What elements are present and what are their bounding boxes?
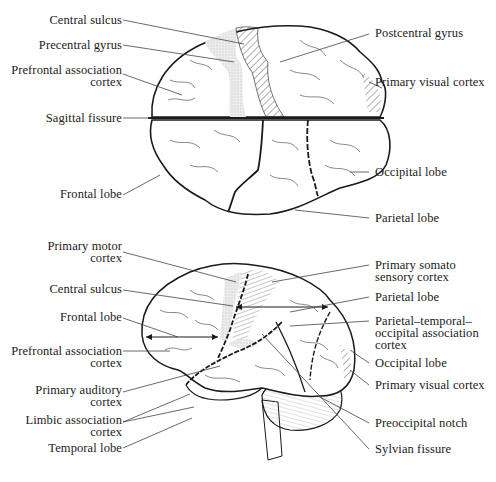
label-sylvian-fissure: Sylvian fissure (375, 443, 451, 455)
label-prefrontal-association-cortex-top: Prefrontal associationcortex (11, 64, 122, 88)
label-primary-somatosensory-cortex: Primary somatosensory cortex (375, 259, 456, 283)
label-primary-visual-cortex-lateral: Primary visual cortex (375, 379, 485, 391)
label-frontal-lobe-top: Frontal lobe (60, 188, 122, 200)
label-parietal-lobe-lateral: Parietal lobe (375, 291, 439, 303)
label-limbic-association-cortex: Limbic associationcortex (25, 414, 122, 438)
label-parietal-temporal-occipital-association-cortex: Parietal–temporal–occipital associationc… (375, 315, 479, 351)
label-precentral-gyrus: Precentral gyrus (39, 39, 122, 51)
label-parietal-lobe-top: Parietal lobe (375, 212, 439, 224)
label-primary-visual-cortex-top: Primary visual cortex (375, 76, 485, 88)
label-prefrontal-association-cortex-lateral: Prefrontal associationcortex (11, 345, 122, 369)
label-frontal-lobe-lateral: Frontal lobe (60, 311, 122, 323)
label-occipital-lobe-lateral: Occipital lobe (375, 357, 447, 369)
brain-anatomy-diagram: Central sulcus Precentral gyrus Prefront… (0, 0, 496, 482)
label-postcentral-gyrus: Postcentral gyrus (375, 27, 463, 39)
label-primary-auditory-cortex: Primary auditorycortex (35, 384, 122, 408)
label-temporal-lobe: Temporal lobe (48, 442, 122, 454)
label-sagittal-fissure: Sagittal fissure (46, 112, 122, 124)
label-central-sulcus-lateral: Central sulcus (49, 283, 122, 295)
label-preoccipital-notch: Preoccipital notch (375, 417, 467, 429)
label-central-sulcus-top: Central sulcus (49, 14, 122, 26)
label-primary-motor-cortex: Primary motorcortex (47, 240, 122, 264)
lateral-view-brain (142, 264, 355, 460)
label-occipital-lobe-top: Occipital lobe (375, 166, 447, 178)
